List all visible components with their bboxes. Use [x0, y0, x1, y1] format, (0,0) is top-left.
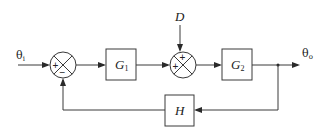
h-label: H [174, 103, 185, 118]
sum1-plus-sign: + [53, 60, 59, 71]
output-arrow [252, 62, 300, 68]
block-g2: G2 [222, 49, 252, 80]
sum1-minus-sign: − [60, 67, 66, 78]
sum1-to-g1-arrow [76, 62, 106, 68]
disturbance-arrow [177, 25, 183, 52]
output-label: θo [302, 47, 313, 61]
block-g1: G1 [106, 49, 136, 80]
sum2-top-plus-sign: + [180, 52, 186, 63]
g1-to-sum2-arrow [136, 62, 170, 68]
h-to-sum1-arrow [60, 78, 165, 110]
block-h: H [165, 95, 194, 126]
input-label: θi [16, 49, 26, 63]
sum2-left-plus-sign: + [173, 61, 179, 72]
disturbance-label: D [174, 9, 185, 24]
sum2-to-g2-arrow [196, 62, 222, 68]
block-diagram: θi + − G1 D + + G [0, 0, 323, 132]
summing-junction-1: + − [50, 52, 76, 78]
summing-junction-2: + + [170, 52, 196, 78]
